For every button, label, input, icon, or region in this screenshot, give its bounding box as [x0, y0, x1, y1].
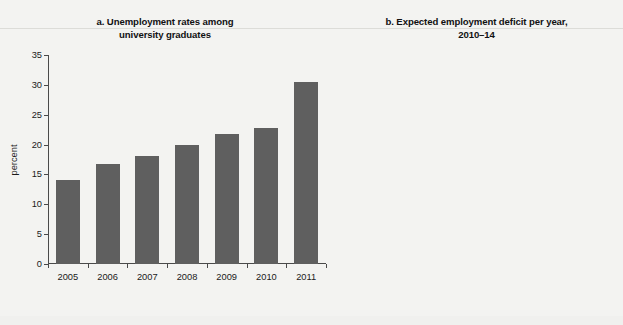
x-tick-a [167, 264, 168, 268]
y-tick-a-7 [44, 55, 48, 56]
bar [215, 134, 239, 264]
bar [96, 164, 120, 264]
y-tick-a-5 [44, 115, 48, 116]
x-tick-a [88, 264, 89, 268]
bar [254, 128, 278, 264]
plot-area-a: percent 05101520253035 20052006200720082… [48, 55, 326, 264]
bar [56, 180, 80, 264]
x-tick-a [127, 264, 128, 268]
y-tick-a-4 [44, 145, 48, 146]
x-tick-label-a-0: 2005 [58, 272, 79, 283]
y-tick-a-6 [44, 85, 48, 86]
x-tick-label-line: 2008 [177, 272, 198, 283]
chart-panel-a: a. Unemployment rates among university g… [0, 0, 330, 325]
x-tick-label-a-5: 2010 [256, 272, 277, 283]
y-tick-label-a-3: 15 [32, 169, 42, 179]
y-tick-label-a-4: 20 [32, 140, 42, 150]
y-tick-label-a-0: 0 [37, 259, 42, 269]
y-tick-a-2 [44, 204, 48, 205]
figure-container: a. Unemployment rates among university g… [0, 0, 623, 325]
x-tick-label-a-1: 2006 [97, 272, 118, 283]
y-tick-a-1 [44, 234, 48, 235]
y-tick-label-a-1: 5 [37, 229, 42, 239]
x-tick-label-a-2: 2007 [137, 272, 158, 283]
y-tick-label-a-7: 35 [32, 50, 42, 60]
y-axis-a [48, 55, 49, 264]
x-tick-a [247, 264, 248, 268]
x-tick-label-a-6: 2011 [296, 272, 316, 283]
x-tick-label-line: 2006 [97, 272, 118, 283]
y-tick-label-a-5: 25 [32, 110, 42, 120]
x-tick-label-a-4: 2009 [216, 272, 237, 283]
panel-b-title-line-1: b. Expected employment deficit per year, [330, 16, 623, 29]
x-tick-label-a-3: 2008 [177, 272, 198, 283]
panel-b-title-line-2: 2010–14 [330, 29, 623, 42]
x-tick-label-line: 2011 [296, 272, 316, 283]
x-tick-a [207, 264, 208, 268]
bar [175, 145, 199, 264]
x-tick-label-line: 2009 [216, 272, 237, 283]
y-tick-a-3 [44, 174, 48, 175]
bar [135, 156, 159, 264]
panel-a-title: a. Unemployment rates among university g… [0, 16, 330, 41]
x-tick-label-line: 2007 [137, 272, 158, 283]
panel-b-title: b. Expected employment deficit per year,… [330, 16, 623, 41]
x-tick-a [286, 264, 287, 268]
bar [294, 82, 318, 264]
panel-a-title-line-1: a. Unemployment rates among [0, 16, 330, 29]
x-tick-a [48, 264, 49, 268]
x-tick-label-line: 2010 [256, 272, 277, 283]
page-footer-edge [0, 316, 623, 325]
panel-a-title-line-2: university graduates [0, 29, 330, 42]
chart-panel-b: b. Expected employment deficit per year,… [330, 0, 623, 325]
y-axis-label-a: percent [9, 144, 19, 175]
x-tick-a [326, 264, 327, 268]
y-tick-label-a-6: 30 [32, 80, 42, 90]
y-tick-label-a-2: 10 [32, 199, 42, 209]
x-tick-label-line: 2005 [58, 272, 79, 283]
